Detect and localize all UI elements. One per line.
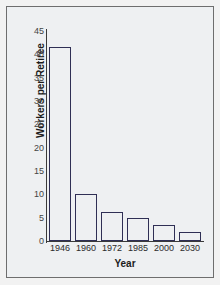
y-tick-label: 45 [18, 27, 44, 36]
bar-slot [125, 31, 151, 241]
bar[interactable] [153, 225, 175, 241]
y-tick-label: 35 [18, 73, 44, 82]
bar-slot [99, 31, 125, 241]
y-axis-tick-labels: 051015202530354045 [14, 0, 44, 285]
chart-figure: Workers per Retiree 051015202530354045 Y… [0, 0, 220, 285]
y-tick-label: 10 [18, 190, 44, 199]
bar-slot [151, 31, 177, 241]
y-tick-label: 25 [18, 120, 44, 129]
y-tick-label: 15 [18, 167, 44, 176]
bar[interactable] [101, 212, 123, 241]
y-tick-label: 20 [18, 143, 44, 152]
x-axis-line [46, 241, 204, 242]
y-tick-label: 5 [18, 213, 44, 222]
bar[interactable] [49, 47, 71, 241]
bar-slot [177, 31, 203, 241]
bar-slot [47, 31, 73, 241]
bar-slot [73, 31, 99, 241]
bar[interactable] [179, 232, 201, 241]
bar[interactable] [75, 194, 97, 241]
plot-area [47, 31, 203, 241]
x-axis-title: Year [47, 258, 203, 269]
x-tick-label: 2030 [173, 244, 207, 253]
bar[interactable] [127, 218, 149, 241]
y-tick-label: 30 [18, 97, 44, 106]
y-tick-label: 0 [18, 237, 44, 246]
y-tick-label: 40 [18, 50, 44, 59]
